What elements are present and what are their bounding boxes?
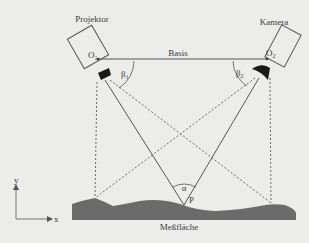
- point-p-label: P: [189, 195, 194, 205]
- camera-body: [265, 25, 301, 67]
- projector-label: Projektor: [75, 14, 109, 24]
- projector-ray-to-p: [105, 80, 184, 205]
- beta2-label: β2: [236, 68, 244, 79]
- camera-origin-label: O2: [266, 48, 276, 59]
- alpha-label: α: [182, 183, 187, 193]
- projector-left-ray: [95, 82, 97, 198]
- camera-origin-dot: [266, 58, 268, 60]
- measurement-surface: [72, 198, 296, 220]
- y-axis-label: y: [14, 175, 19, 185]
- baseline-label: Basis: [168, 48, 188, 58]
- triangulation-diagram: Basis O1 Projektor β1 O2 Kamera β2 α P M…: [0, 0, 309, 243]
- x-axis-label: x: [54, 214, 59, 224]
- projector-lens-icon: [98, 68, 111, 80]
- camera-label: Kamera: [260, 17, 288, 27]
- camera-ray-to-p: [184, 78, 259, 205]
- beta1-label: β1: [121, 69, 129, 80]
- surface-label: Meßfläche: [160, 222, 198, 232]
- camera-right-ray: [270, 78, 271, 203]
- projector: O1 Projektor β1: [67, 14, 134, 88]
- projector-origin-label: O1: [88, 50, 98, 61]
- projector-body: [67, 25, 108, 68]
- camera-left-ray: [95, 78, 255, 198]
- camera: O2 Kamera β2: [233, 17, 301, 86]
- coordinate-axes: [16, 185, 52, 219]
